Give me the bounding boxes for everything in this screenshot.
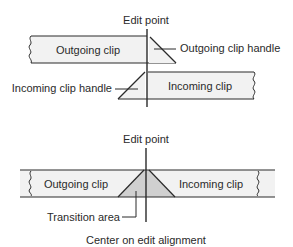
outgoing-clip-handle-label: Outgoing clip handle — [180, 42, 280, 54]
outgoing-clip-label: Outgoing clip — [56, 44, 120, 56]
incoming-clip-handle-label: Incoming clip handle — [12, 82, 112, 94]
incoming-clip-label-bottom: Incoming clip — [179, 178, 243, 190]
transition-area-label: Transition area — [47, 211, 121, 223]
outgoing-clip-label-bottom: Outgoing clip — [44, 178, 108, 190]
edit-point-diagram: Outgoing clip Outgoing clip handle Incom… — [0, 0, 293, 247]
edit-point-label-top: Edit point — [123, 14, 169, 26]
bottom-diagram: Outgoing clip Incoming clip Transition a… — [20, 133, 275, 246]
edit-point-label-bottom: Edit point — [123, 133, 169, 145]
incoming-clip-top: Incoming clip — [118, 72, 255, 99]
incoming-clip-label: Incoming clip — [168, 80, 232, 92]
top-diagram: Outgoing clip Outgoing clip handle Incom… — [12, 14, 281, 107]
outgoing-clip-top: Outgoing clip — [29, 36, 176, 63]
alignment-caption: Center on edit alignment — [86, 234, 206, 246]
